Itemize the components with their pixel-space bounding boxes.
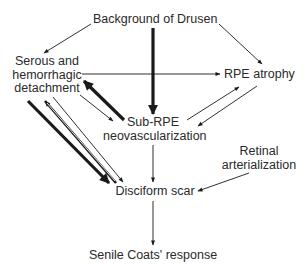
node-label: RPE atrophy <box>224 68 294 82</box>
node-label-line-3: detachment <box>10 82 84 96</box>
disease-progression-diagram: Background of Drusen Serous and hemorrha… <box>0 0 304 265</box>
node-label: Disciform scar <box>113 185 197 199</box>
edge-drusen-to-rpe-atrophy <box>219 24 262 64</box>
node-rpe-atrophy: RPE atrophy <box>224 68 294 82</box>
node-label-line-2: arterialization <box>220 159 298 173</box>
edge-rpe-atrophy-to-sub-rpe <box>198 86 257 126</box>
node-serous-hemorrhagic-detachment: Serous and hemorrhagic detachment <box>10 55 84 96</box>
node-retinal-arterialization: Retinal arterialization <box>220 145 298 172</box>
node-disciform-scar: Disciform scar <box>113 185 197 199</box>
node-label-line-1: Retinal <box>220 145 298 159</box>
node-label: Background of Drusen <box>93 13 217 27</box>
node-label-line-2: hemorrhagic <box>10 69 84 83</box>
edge-serous-to-disciform-thick <box>28 101 109 183</box>
node-senile-coats-response: Senile Coats' response <box>88 249 218 263</box>
node-label-line-1: Sub-RPE <box>103 116 203 130</box>
node-sub-rpe-neovascularization: Sub-RPE neovascularization <box>103 116 203 143</box>
node-background-of-drusen: Background of Drusen <box>93 13 217 27</box>
node-label: Senile Coats' response <box>88 249 218 263</box>
node-label-line-1: Serous and <box>10 55 84 69</box>
edge-drusen-to-serous <box>44 24 91 53</box>
node-label-line-2: neovascularization <box>103 130 203 144</box>
edge-retinal-to-disciform <box>198 173 249 191</box>
